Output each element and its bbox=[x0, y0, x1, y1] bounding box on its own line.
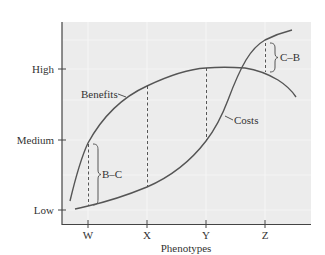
b-c-label: B–C bbox=[102, 168, 122, 180]
benefits-label: Benefits bbox=[81, 88, 118, 100]
y-label-low: Low bbox=[34, 204, 54, 216]
c-b-label: C–B bbox=[280, 51, 300, 63]
x-label-x: X bbox=[143, 229, 151, 241]
y-label-medium: Medium bbox=[17, 134, 55, 146]
x-label-z: Z bbox=[262, 229, 269, 241]
y-label-high: High bbox=[32, 63, 55, 75]
x-label-y: Y bbox=[202, 229, 210, 241]
plot-area bbox=[62, 22, 311, 224]
x-axis-title: Phenotypes bbox=[161, 242, 212, 254]
tradeoff-chart: High Medium Low W X Y Z Phenotypes Benef… bbox=[0, 0, 325, 255]
costs-label: Costs bbox=[234, 114, 258, 126]
x-label-w: W bbox=[83, 229, 94, 241]
